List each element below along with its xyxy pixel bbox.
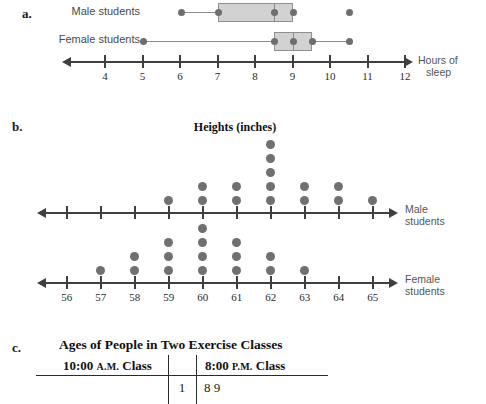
dot-female-58-1 [130, 266, 139, 275]
tick-b-male-4 [202, 206, 204, 219]
tick-b-female-9 [372, 276, 374, 289]
tick-label-a-4: 8 [235, 70, 275, 82]
tick-b-male-7 [304, 206, 306, 219]
median-dot-male [271, 9, 278, 16]
dot-female-61-3 [232, 238, 241, 247]
group-label-male-students: Male students [40, 5, 140, 17]
tick-b-male-3 [168, 206, 170, 219]
group-label-female-students: Female students [30, 33, 140, 45]
tick-b-male-1 [100, 206, 102, 219]
part-label-b: b. [12, 119, 22, 135]
tick-a-5 [292, 55, 294, 68]
dot-female-60-2 [198, 252, 207, 261]
header-left-class: Class [122, 358, 152, 373]
dot-male-60-1 [198, 196, 207, 205]
dot-male-62-3 [266, 168, 275, 177]
whisker-female [143, 41, 349, 42]
tick-b-male-2 [134, 206, 136, 219]
box-male [218, 3, 293, 22]
dot-male-63-1 [300, 196, 309, 205]
tick-a-2 [179, 55, 181, 68]
tick-label-a-2: 6 [160, 70, 200, 82]
q3-dot-female [309, 38, 316, 45]
tick-a-0 [104, 55, 106, 68]
part-label-a: a. [22, 6, 32, 22]
tick-a-7 [367, 55, 369, 68]
dot-female-59-1 [164, 266, 173, 275]
q3-dot-male [290, 9, 297, 16]
stem-leaf-header-left: 10:00 A.M. Class [63, 358, 152, 374]
tick-label-a-3: 7 [198, 70, 238, 82]
q1-dot-female [271, 38, 278, 45]
tick-label-a-8: 12 [385, 70, 425, 82]
tick-label-a-1: 5 [123, 70, 163, 82]
tick-label-a-6: 10 [310, 70, 350, 82]
axis-arrow-left-icon [62, 57, 71, 67]
tick-b-male-9 [372, 206, 374, 219]
dot-male-64-2 [334, 182, 343, 191]
dot-male-63-2 [300, 182, 309, 191]
max-dot-female [346, 38, 353, 45]
dot-female-62-1 [266, 266, 275, 275]
axis-label-male-line2: students [405, 215, 475, 227]
stem-leaf-header-right: 8:00 P.M. Class [205, 358, 285, 374]
dot-female-61-1 [232, 266, 241, 275]
tick-b-male-0 [66, 206, 68, 219]
dot-male-59-1 [164, 196, 173, 205]
tick-b-female-3 [168, 276, 170, 289]
tick-b-male-5 [236, 206, 238, 219]
tick-b-male-6 [270, 206, 272, 219]
dot-female-59-3 [164, 238, 173, 247]
tick-b-female-6 [270, 276, 272, 289]
header-left-time: 10:00 [63, 358, 93, 373]
tick-b-female-8 [338, 276, 340, 289]
tick-a-3 [217, 55, 219, 68]
tick-label-a-7: 11 [348, 70, 388, 82]
tick-b-female-1 [100, 276, 102, 289]
axis-title-sleep: sleep [426, 66, 486, 78]
dot-male-64-1 [334, 196, 343, 205]
part-label-c: c. [12, 340, 21, 356]
tick-b-female-4 [202, 276, 204, 289]
tick-a-1 [142, 55, 144, 68]
min-dot-female [140, 38, 147, 45]
tick-a-8 [404, 55, 406, 68]
header-left-period: A.M. [97, 361, 119, 372]
stem-leaf-divider-right [196, 355, 197, 404]
axis-arrow-left-icon-female [37, 278, 46, 288]
tick-b-female-7 [304, 276, 306, 289]
dot-female-60-3 [198, 238, 207, 247]
max-dot-male [346, 9, 353, 16]
tick-b-female-0 [66, 276, 68, 289]
axis-arrow-right-icon-male [389, 208, 398, 218]
header-right-period: P.M. [232, 361, 252, 372]
axis-arrow-left-icon-male [37, 208, 46, 218]
tick-label-a-0: 4 [85, 70, 125, 82]
dot-female-59-2 [164, 252, 173, 261]
chart-title-heights: Heights (inches) [145, 120, 325, 135]
tick-b-male-8 [338, 206, 340, 219]
dot-male-62-4 [266, 154, 275, 163]
dot-male-65-1 [368, 196, 377, 205]
dot-female-60-1 [198, 266, 207, 275]
stem-leaf-title: Ages of People in Two Exercise Classes [59, 337, 282, 353]
header-right-time: 8:00 [205, 358, 229, 373]
dot-male-61-1 [232, 196, 241, 205]
tick-label-a-5: 9 [273, 70, 313, 82]
tick-b-female-2 [134, 276, 136, 289]
dot-male-62-2 [266, 182, 275, 191]
dot-female-62-2 [266, 252, 275, 261]
dot-male-62-5 [266, 140, 275, 149]
stem-0: 1 [172, 380, 192, 396]
header-right-class: Class [256, 358, 286, 373]
tick-a-6 [329, 55, 331, 68]
median-dot-female [290, 38, 297, 45]
axis-label-male-line1: Male [405, 203, 475, 215]
leaf-right-0: 8 9 [204, 380, 324, 396]
dot-male-62-1 [266, 196, 275, 205]
stem-leaf-divider-left [168, 355, 169, 404]
axis-title-hours: Hours of [418, 54, 484, 66]
dot-female-60-4 [198, 224, 207, 233]
axis-label-female-line2: students [405, 285, 475, 297]
tick-label-b-9: 65 [353, 291, 393, 303]
